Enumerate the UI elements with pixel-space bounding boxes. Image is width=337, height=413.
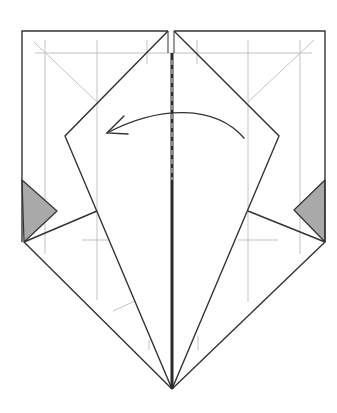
guide-tick-lower-left (113, 301, 135, 311)
kite-right-edge (172, 31, 279, 389)
fold-arrow-icon (107, 113, 244, 138)
guide-diagonal-left (34, 42, 97, 102)
guide-diagonal-right (248, 40, 314, 102)
shaded-flap-right (294, 180, 325, 242)
shaded-flap-left (22, 180, 57, 242)
guide-lines (34, 40, 314, 350)
bottom-left-edge (24, 242, 172, 389)
diagram-canvas (0, 0, 337, 413)
bottom-right-edge (172, 242, 325, 389)
center-crease (168, 31, 174, 389)
